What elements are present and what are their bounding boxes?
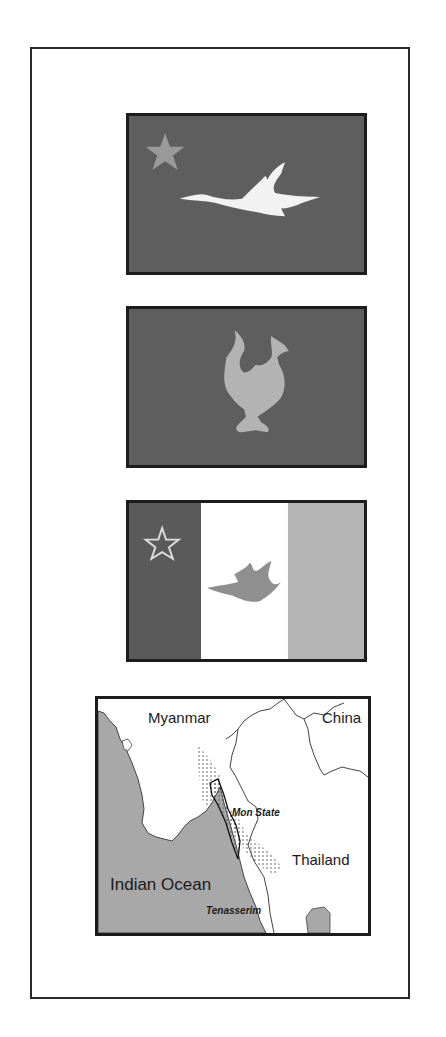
- flag-star-swan-graphic: [129, 116, 364, 272]
- label-myanmar: Myanmar: [148, 709, 211, 726]
- label-mon-state: Mon State: [232, 807, 280, 818]
- stripe-light: [288, 503, 364, 659]
- stripe-dark: [129, 503, 201, 659]
- label-indian-ocean: Indian Ocean: [110, 875, 211, 895]
- label-thailand: Thailand: [292, 851, 350, 868]
- label-china: China: [322, 709, 361, 726]
- region-map: Myanmar China Thailand Indian Ocean Mon …: [95, 696, 371, 936]
- label-tenasserim: Tenasserim: [206, 905, 261, 916]
- flag-hamsa: [126, 306, 367, 468]
- flag-star-swan: [126, 113, 367, 275]
- flag-tricolor-graphic: [129, 503, 364, 659]
- flag-tricolor: [126, 500, 367, 662]
- flag-hamsa-graphic: [129, 309, 364, 465]
